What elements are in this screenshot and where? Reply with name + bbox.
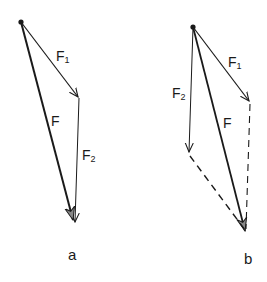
label-f1: F1 — [56, 48, 70, 65]
diagram-a: F1 F F2 a — [18, 19, 95, 263]
vector-f2 — [75, 98, 79, 222]
dashed-side-from-f1 — [246, 104, 250, 229]
diagram-b: F1 F2 F b — [172, 24, 252, 267]
label-f2: F2 — [172, 85, 186, 102]
caption-b: b — [244, 250, 252, 267]
label-f2: F2 — [82, 147, 96, 164]
dashed-side-from-f2 — [190, 156, 245, 230]
label-f: F — [223, 115, 232, 131]
label-f1: F1 — [228, 54, 242, 71]
vector-addition-figure: F1 F F2 a F1 F2 F b — [0, 0, 267, 282]
vector-resultant-f — [193, 27, 245, 231]
vector-f2 — [189, 27, 193, 152]
vector-resultant-f — [21, 22, 73, 220]
label-f: F — [51, 113, 60, 129]
caption-a: a — [68, 246, 77, 263]
